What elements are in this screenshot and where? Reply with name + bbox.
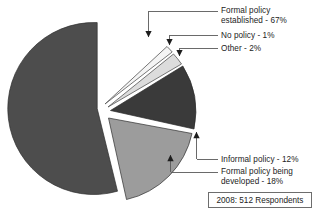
slice-label-line: developed - 18% (221, 177, 293, 187)
slice-label-informal-policy: Informal policy - 12% (221, 155, 299, 165)
pie-slice-formal-policy-being-developed (109, 118, 193, 200)
leader-line-no-policy (170, 35, 219, 45)
respondents-annotation-box: 2008: 512 Respondents (208, 192, 312, 208)
slice-label-line: Informal policy - 12% (221, 155, 299, 165)
slice-label-line: Other - 2% (221, 44, 261, 54)
slice-label-other: Other - 2% (221, 44, 261, 54)
slice-label-line: established - 67% (221, 16, 287, 26)
slice-label-formal-policy-established: Formal policy established - 67% (221, 6, 287, 25)
slice-label-no-policy: No policy - 1% (221, 31, 274, 41)
pie-chart-figure: Formal policy established - 67% No polic… (0, 0, 318, 216)
leader-line-formal-established (149, 11, 219, 37)
slice-label-line: No policy - 1% (221, 31, 274, 41)
leader-line-informal (197, 132, 219, 159)
slice-label-line: Formal policy (221, 6, 287, 16)
slice-label-line: Formal policy being (221, 167, 293, 177)
respondents-text: 2008: 512 Respondents (217, 196, 304, 205)
slice-label-formal-policy-being-developed: Formal policy being developed - 18% (221, 167, 293, 186)
pie-slice-formal-policy-established (8, 23, 118, 195)
leader-line-other (180, 48, 219, 56)
